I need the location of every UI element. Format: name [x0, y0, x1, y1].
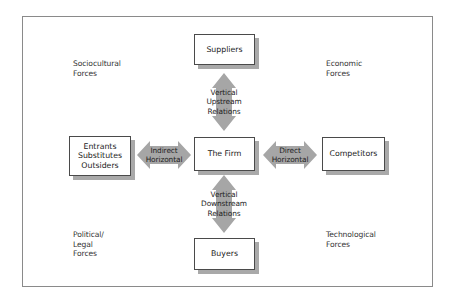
downstream-relations-label: Vertical Downstream Relations	[204, 174, 244, 234]
suppliers-box: Suppliers	[194, 34, 255, 65]
indirect-horizontal-arrow: Indirect Horizontal	[136, 139, 192, 171]
competitors-box: Competitors	[322, 137, 385, 171]
entrants-substitutes-outsiders-box: Entrants Substitutes Outsiders	[69, 136, 131, 176]
political-legal-forces-label: Political/ Legal Forces	[73, 230, 104, 259]
direct-horizontal-label: Direct Horizontal	[262, 139, 318, 171]
direct-horizontal-arrow: Direct Horizontal	[262, 139, 318, 171]
the-firm-box: The Firm	[194, 137, 255, 171]
vertical-downstream-arrow: Vertical Downstream Relations	[204, 174, 244, 234]
upstream-relations-label: Vertical Upstream Relations	[204, 72, 244, 132]
economic-forces-label: Economic Forces	[326, 59, 362, 78]
indirect-horizontal-label: Indirect Horizontal	[136, 139, 192, 171]
buyers-box: Buyers	[194, 238, 255, 270]
vertical-upstream-arrow: Vertical Upstream Relations	[204, 72, 244, 132]
technological-forces-label: Technological Forces	[326, 230, 376, 249]
sociocultural-forces-label: Sociocultural Forces	[73, 59, 121, 78]
